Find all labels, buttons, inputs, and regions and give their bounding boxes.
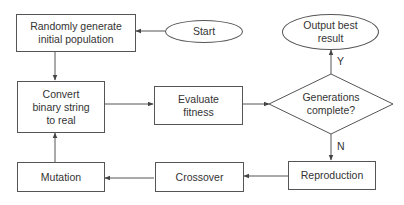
node-random-init-line1: Randomly generate <box>30 20 122 33</box>
edge-label-yes: Y <box>337 55 344 67</box>
node-evaluate-line2: fitness <box>178 106 219 119</box>
node-convert-line3: to real <box>32 114 89 127</box>
node-output: Output best result <box>282 14 379 50</box>
node-convert: Convert binary string to real <box>17 81 105 133</box>
node-convert-line1: Convert <box>32 88 89 101</box>
node-decision: Generations complete? <box>280 91 382 117</box>
node-mutation-label: Mutation <box>41 171 81 184</box>
node-crossover: Crossover <box>155 162 244 192</box>
node-output-line1: Output best <box>303 19 357 32</box>
node-convert-line2: binary string <box>32 101 89 114</box>
node-evaluate-line1: Evaluate <box>178 93 219 106</box>
node-start-label: Start <box>193 25 215 38</box>
node-random-init: Randomly generate initial population <box>16 14 136 52</box>
edge-label-no: N <box>337 140 345 152</box>
node-evaluate: Evaluate fitness <box>154 86 243 125</box>
node-reproduction: Reproduction <box>288 161 376 190</box>
node-decision-line2: complete? <box>280 104 382 117</box>
node-random-init-line2: initial population <box>30 33 122 46</box>
node-output-line2: result <box>303 32 357 45</box>
node-mutation: Mutation <box>17 162 105 192</box>
node-start: Start <box>165 20 243 43</box>
node-decision-line1: Generations <box>280 91 382 104</box>
node-reproduction-label: Reproduction <box>301 169 363 182</box>
node-crossover-label: Crossover <box>176 171 224 184</box>
